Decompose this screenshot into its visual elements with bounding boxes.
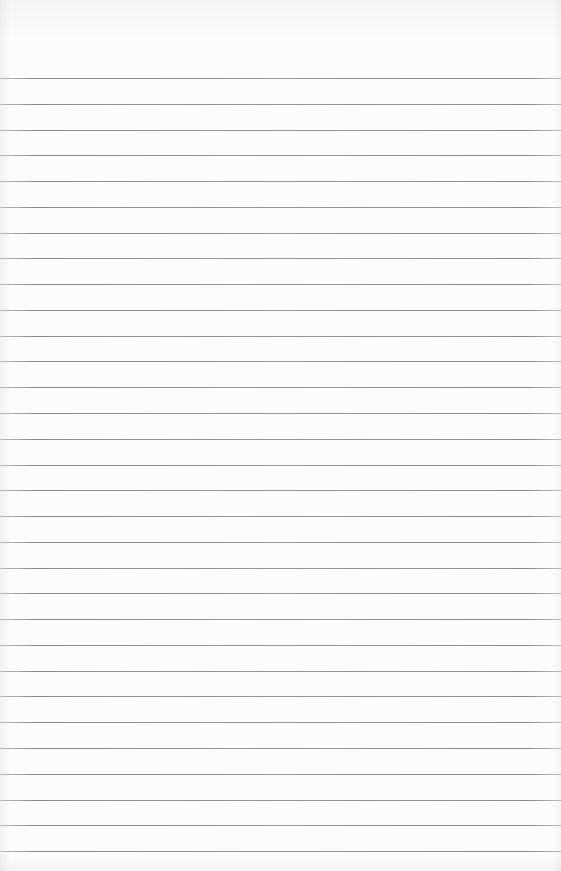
ruled-line (0, 568, 561, 569)
ruled-line (0, 748, 561, 749)
ruled-line (0, 413, 561, 414)
ruled-line (0, 671, 561, 672)
ruled-line (0, 465, 561, 466)
ruled-line (0, 130, 561, 131)
ruled-line (0, 696, 561, 697)
ruled-line (0, 361, 561, 362)
ruled-line (0, 800, 561, 801)
ruled-line (0, 155, 561, 156)
ruled-line (0, 490, 561, 491)
ruled-line (0, 181, 561, 182)
ruled-line (0, 233, 561, 234)
ruled-line (0, 516, 561, 517)
lined-paper-sheet (0, 0, 561, 871)
ruled-line (0, 207, 561, 208)
ruled-line (0, 825, 561, 826)
ruled-line (0, 258, 561, 259)
ruled-line (0, 593, 561, 594)
ruled-line (0, 387, 561, 388)
ruled-line (0, 284, 561, 285)
ruled-line (0, 310, 561, 311)
ruled-line (0, 851, 561, 852)
ruled-line (0, 645, 561, 646)
ruled-line (0, 439, 561, 440)
ruled-line (0, 774, 561, 775)
ruled-line (0, 619, 561, 620)
ruled-line (0, 78, 561, 79)
ruled-line (0, 722, 561, 723)
ruled-line (0, 542, 561, 543)
ruled-line (0, 104, 561, 105)
ruled-line (0, 336, 561, 337)
